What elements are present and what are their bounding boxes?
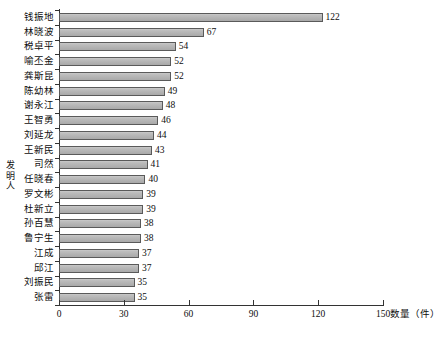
bar-row: 税卓平54 [0,39,445,54]
category-label: 司然 [0,157,54,172]
category-label: 龚斯昆 [0,69,54,84]
bar-row: 刘振民35 [0,275,445,290]
bar-value-label: 122 [326,10,340,25]
bar-value-label: 44 [157,128,167,143]
category-label: 林晓波 [0,25,54,40]
bar-value-label: 40 [148,172,158,187]
y-axis-tick [55,84,59,85]
y-axis-tick [55,217,59,218]
bar [59,160,148,169]
bar-value-label: 39 [146,202,156,217]
bar-value-label: 46 [161,113,171,128]
category-label: 刘振民 [0,275,54,290]
y-axis-tick [55,276,59,277]
bar-row: 邱江37 [0,261,445,276]
bar [59,101,163,110]
bar-value-label: 48 [166,98,176,113]
x-axis-line [59,305,384,306]
bar-row: 王新民43 [0,143,445,158]
y-axis-tick [55,158,59,159]
x-axis-title: 数量（件） [390,308,440,320]
y-axis-tick [55,40,59,41]
x-axis-tick [189,300,190,305]
bar-row: 林晓波67 [0,25,445,40]
category-label: 鲁宁生 [0,231,54,246]
bar [59,175,145,184]
bar-row: 张雷35 [0,290,445,305]
bar-value-label: 41 [151,157,161,172]
y-axis-tick [55,143,59,144]
x-axis-tick-label: 90 [233,308,273,320]
bar [59,57,171,66]
bar-row: 鲁宁生38 [0,231,445,246]
y-axis-tick [55,246,59,247]
bar [59,219,141,228]
category-label: 陈幼林 [0,84,54,99]
bar-row: 江成37 [0,246,445,261]
y-axis-tick [55,99,59,100]
bar-value-label: 37 [142,261,152,276]
category-label: 刘延龙 [0,128,54,143]
y-axis-tick [55,10,59,11]
y-axis-tick [55,290,59,291]
bar [59,264,139,273]
category-label: 罗文彬 [0,187,54,202]
bar [59,205,143,214]
category-label: 税卓平 [0,39,54,54]
x-axis-tick-label: 0 [39,308,79,320]
x-axis-tick [253,300,254,305]
bar-row: 王智勇46 [0,113,445,128]
y-axis-tick [55,231,59,232]
bar-chart: 发 明 人 钱振地122林晓波67税卓平54喻丕金52龚斯昆52陈幼林49谢永江… [0,0,445,345]
y-axis-tick [55,261,59,262]
x-axis-tick-label: 60 [169,308,209,320]
bar-value-label: 54 [179,39,189,54]
category-label: 喻丕金 [0,54,54,69]
y-axis-tick [55,54,59,55]
bar-value-label: 35 [138,275,148,290]
x-axis-tick [59,300,60,305]
bar-value-label: 49 [168,84,178,99]
y-axis-tick [55,187,59,188]
category-label: 钱振地 [0,10,54,25]
bar-row: 司然41 [0,157,445,172]
bar-value-label: 35 [138,290,148,305]
category-label: 任晓春 [0,172,54,187]
bar [59,72,171,81]
bar-value-label: 37 [142,246,152,261]
bar-row: 喻丕金52 [0,54,445,69]
bar-row: 刘延龙44 [0,128,445,143]
category-label: 王智勇 [0,113,54,128]
category-label: 王新民 [0,143,54,158]
y-axis-tick [55,305,59,306]
bar [59,13,323,22]
bar-value-label: 39 [146,187,156,202]
bar-row: 罗文彬39 [0,187,445,202]
y-axis-tick [55,25,59,26]
y-axis-tick [55,128,59,129]
y-axis-tick [55,69,59,70]
bar-row: 陈幼林49 [0,84,445,99]
bar-row: 龚斯昆52 [0,69,445,84]
bar [59,42,176,51]
bar [59,278,135,287]
y-axis-tick [55,113,59,114]
bar [59,28,204,37]
bar-value-label: 38 [144,231,154,246]
x-axis-tick-label: 120 [298,308,338,320]
bar-value-label: 43 [155,143,165,158]
bar-value-label: 52 [174,54,184,69]
category-label: 孙百慧 [0,216,54,231]
x-axis-tick-label: 30 [104,308,144,320]
y-axis-tick [55,202,59,203]
bar-row: 任晓春40 [0,172,445,187]
bar [59,131,154,140]
x-axis-tick [318,300,319,305]
bar [59,146,152,155]
bar-row: 孙百慧38 [0,216,445,231]
bar [59,234,141,243]
category-label: 杜新立 [0,202,54,217]
bar-row: 谢永江48 [0,98,445,113]
bar-value-label: 52 [174,69,184,84]
bar-value-label: 67 [207,25,217,40]
